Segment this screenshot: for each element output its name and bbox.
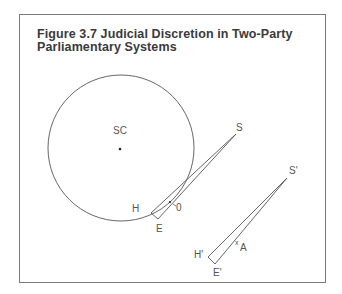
sc-label: SC — [113, 125, 127, 136]
sc-circle — [48, 75, 194, 221]
label-s: S — [236, 122, 243, 133]
wedge-s-h-e — [151, 134, 236, 219]
label-o: 0 — [176, 202, 182, 213]
label-a: A — [240, 242, 247, 253]
diagram: SC S H E 0 S' H' E' x A — [0, 0, 342, 294]
label-e-prime: E' — [213, 267, 222, 278]
wedge-s-prime-h-prime-e-prime — [208, 178, 287, 264]
label-s-prime: S' — [289, 165, 298, 176]
label-h-prime: H' — [194, 249, 203, 260]
point-o-marker — [169, 201, 171, 203]
label-e: E — [156, 223, 163, 234]
point-a-marker: x — [235, 239, 239, 246]
label-h: H — [132, 203, 139, 214]
sc-center-point — [119, 148, 122, 151]
